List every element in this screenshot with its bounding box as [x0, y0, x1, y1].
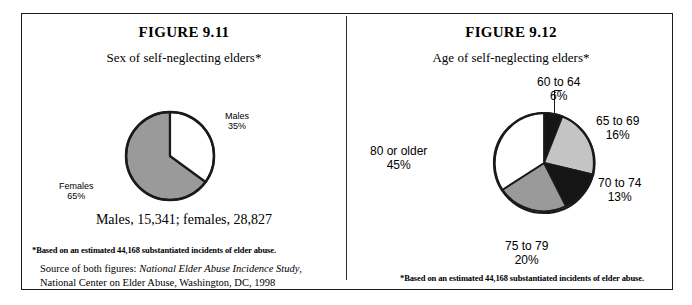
pie-label-males-name: Males: [225, 111, 249, 121]
source-note: Source of both figures: National Elder A…: [40, 262, 302, 290]
figure-left-footnote: *Based on an estimated 44,168 substantia…: [32, 245, 276, 255]
pie-label-75-to-79-value: 20%: [505, 254, 548, 268]
pie-label-65-to-69: 65 to 69 16%: [596, 115, 639, 143]
figure-frame: FIGURE 9.11 Sex of self-neglecting elder…: [21, 13, 673, 290]
pie-label-60-to-64: 60 to 64 6%: [537, 76, 580, 104]
sex-pie-svg: [106, 92, 234, 220]
pie-label-males: Males 35%: [225, 111, 249, 132]
source-note-suffix: ,: [299, 263, 302, 274]
figure-panel-right: FIGURE 9.12 Age of self-neglecting elder…: [348, 14, 674, 289]
pie-label-75-to-79-name: 75 to 79: [505, 240, 548, 254]
pie-label-70-to-74: 70 to 74 13%: [598, 177, 641, 205]
figure-right-title: FIGURE 9.12: [348, 24, 674, 41]
pie-label-70-to-74-name: 70 to 74: [598, 177, 641, 191]
figure-right-footnote: *Based on an estimated 44,168 substantia…: [400, 273, 644, 283]
pie-label-80-or-older: 80 or older 45%: [370, 145, 427, 173]
source-note-line2: National Center on Elder Abuse, Washingt…: [40, 276, 302, 290]
pie-label-60-to-64-name: 60 to 64: [537, 76, 580, 90]
pie-label-75-to-79: 75 to 79 20%: [505, 240, 548, 268]
figure-left-title: FIGURE 9.11: [22, 24, 346, 41]
age-pie-svg: [490, 109, 598, 217]
panel-divider: [346, 16, 347, 280]
figure-panel-left: FIGURE 9.11 Sex of self-neglecting elder…: [22, 14, 346, 289]
pie-label-60-to-64-value: 6%: [537, 90, 580, 104]
pie-label-70-to-74-value: 13%: [598, 191, 641, 205]
pie-label-65-to-69-name: 65 to 69: [596, 115, 639, 129]
pie-label-65-to-69-value: 16%: [596, 129, 639, 143]
figure-right-subtitle: Age of self-neglecting elders*: [348, 50, 674, 66]
sex-totals-line: Males, 15,341; females, 28,827: [22, 212, 346, 228]
figure-left-subtitle: Sex of self-neglecting elders*: [22, 50, 346, 66]
source-note-title: National Elder Abuse Incidence Study: [139, 263, 299, 274]
pie-label-males-value: 35%: [225, 121, 249, 131]
source-note-line1: Source of both figures: National Elder A…: [40, 262, 302, 276]
pie-label-females-name: Females: [59, 181, 94, 191]
pie-label-females-value: 65%: [59, 191, 94, 201]
pie-label-80-or-older-name: 80 or older: [370, 145, 427, 159]
source-note-prefix: Source of both figures:: [40, 263, 139, 274]
pie-label-females: Females 65%: [59, 181, 94, 202]
pie-label-80-or-older-value: 45%: [370, 159, 427, 173]
age-pie-chart: [490, 109, 598, 217]
sex-pie-chart: [106, 92, 234, 220]
